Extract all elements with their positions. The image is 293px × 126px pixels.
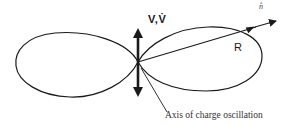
radius-label: R bbox=[234, 42, 242, 53]
velocity-label: V,V̇ bbox=[148, 14, 166, 25]
diagram-canvas bbox=[0, 0, 293, 126]
caption-leader-line bbox=[141, 68, 167, 112]
unit-vector-label: n̂ bbox=[259, 3, 263, 11]
dipole-radiation-diagram: V,V̇ n̂ R Axis of charge oscillation bbox=[0, 0, 293, 126]
left-radiation-lobe bbox=[16, 33, 138, 98]
axis-caption: Axis of charge oscillation bbox=[165, 111, 263, 121]
oscillation-double-arrow-icon bbox=[133, 28, 143, 97]
right-radiation-lobe bbox=[138, 27, 262, 91]
unit-vector-n-arrow bbox=[255, 21, 276, 27]
